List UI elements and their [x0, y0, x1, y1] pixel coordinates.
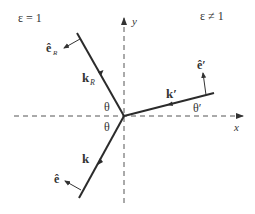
reflected-polarization-vector	[64, 39, 80, 48]
x-axis-label: x	[233, 121, 239, 133]
svg-text:R: R	[89, 78, 95, 87]
svg-text:ê: ê	[46, 41, 52, 55]
reflection-angle-label: θ	[104, 100, 110, 114]
incident-polarization-vector	[65, 181, 81, 190]
transmitted-ray-label: k′	[166, 86, 177, 101]
transmitted-polarization-label: ê′	[197, 58, 206, 72]
svg-text:R: R	[52, 49, 58, 57]
transmitted-polarization-vector	[203, 73, 206, 95]
medium-region-label: ε ≠ 1	[200, 9, 224, 23]
svg-text:k: k	[82, 70, 90, 85]
incident-ray-label: k	[82, 151, 90, 166]
y-axis-label: y	[131, 15, 137, 27]
vacuum-region-label: ε = 1	[18, 11, 42, 25]
transmission-angle-label: θ′	[193, 101, 202, 115]
reflection-refraction-diagram: ε = 1 ε ≠ 1 y x k R k k′ ê R ê ê′ θ θ θ′	[0, 0, 255, 214]
reflected-ray-label: k R	[82, 70, 95, 87]
reflected-polarization-label: ê R	[46, 41, 58, 57]
incident-polarization-label: ê	[54, 172, 60, 186]
incidence-angle-label: θ	[104, 120, 110, 134]
